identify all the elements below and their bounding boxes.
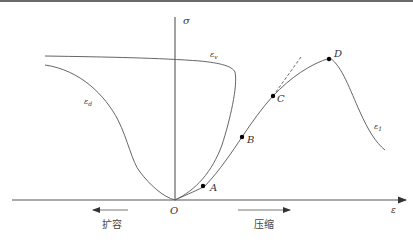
compression-label: 压缩 — [254, 218, 274, 230]
point-c-marker — [271, 94, 275, 98]
curve-epsilon-1-label: ε1 — [374, 122, 382, 132]
point-d-marker — [327, 57, 331, 61]
point-b-marker — [240, 135, 244, 139]
point-b-label: B — [246, 134, 254, 145]
expansion-label: 扩容 — [102, 218, 122, 230]
curve-epsilon-v-label: εv — [210, 50, 218, 60]
x-axis-label: ε — [391, 205, 396, 215]
curve-epsilon-v — [45, 56, 236, 200]
y-axis-label: σ — [183, 15, 191, 26]
point-a-label: A — [209, 182, 217, 193]
point-a-marker — [201, 184, 205, 188]
stress-strain-diagram: σ ε O A B C D εv εd ε1 扩容 压缩 — [0, 0, 413, 242]
curve-epsilon-d — [45, 65, 175, 200]
point-d-label: D — [333, 48, 342, 59]
tangent-line-at-c — [273, 57, 301, 96]
curve-epsilon-d-label: εd — [84, 97, 92, 107]
origin-label: O — [170, 205, 178, 216]
curve-epsilon-1 — [175, 58, 385, 200]
point-c-label: C — [277, 93, 285, 104]
